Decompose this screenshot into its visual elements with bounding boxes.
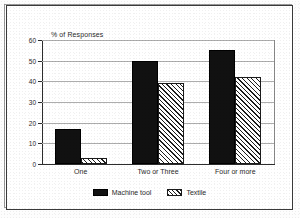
legend-swatch-icon bbox=[167, 189, 182, 196]
bar-machine-tool-four-or-more bbox=[209, 50, 235, 164]
bar-machine-tool-two-or-three bbox=[132, 61, 158, 164]
legend-item-textile: Textile bbox=[167, 189, 206, 196]
x-axis-tick-label: Four or more bbox=[215, 168, 255, 175]
x-axis-tick-label: One bbox=[74, 168, 87, 175]
gridline bbox=[42, 61, 274, 62]
y-axis-tick-mark bbox=[38, 40, 42, 41]
y-axis-tick-mark bbox=[38, 81, 42, 82]
x-axis-tick-label: Two or Three bbox=[137, 168, 178, 175]
plot-right-rule bbox=[274, 40, 275, 165]
bar-machine-tool-one bbox=[55, 129, 81, 164]
y-axis-title: % of Responses bbox=[51, 31, 103, 38]
legend-label: Machine tool bbox=[112, 189, 152, 196]
bar-textile-one bbox=[81, 158, 107, 164]
y-axis-tick-label: 0 bbox=[32, 161, 36, 168]
bar-chart-figure: % of Responses 0102030405060 Machine too… bbox=[6, 5, 293, 210]
y-axis-tick-mark bbox=[38, 102, 42, 103]
y-axis-tick-label: 20 bbox=[29, 119, 36, 126]
bar-textile-four-or-more bbox=[235, 77, 261, 164]
y-axis-tick-label: 50 bbox=[29, 57, 36, 64]
gridline bbox=[42, 40, 274, 41]
y-axis-tick-mark bbox=[38, 143, 42, 144]
y-axis-tick-mark bbox=[38, 123, 42, 124]
legend-label: Textile bbox=[186, 189, 206, 196]
y-axis-tick-mark bbox=[38, 164, 42, 165]
legend-item-machine-tool: Machine tool bbox=[93, 189, 152, 196]
scanned-page: % of Responses 0102030405060 Machine too… bbox=[0, 0, 300, 218]
y-axis-tick-label: 30 bbox=[29, 99, 36, 106]
chart-legend: Machine toolTextile bbox=[6, 189, 293, 196]
y-axis-tick-labels: 0102030405060 bbox=[6, 5, 36, 210]
x-axis-line bbox=[42, 164, 275, 165]
y-axis-tick-mark bbox=[38, 61, 42, 62]
plot-area bbox=[42, 40, 274, 164]
bar-textile-two-or-three bbox=[158, 83, 184, 164]
y-axis-tick-label: 10 bbox=[29, 140, 36, 147]
y-axis-tick-label: 60 bbox=[29, 37, 36, 44]
legend-swatch-icon bbox=[93, 189, 108, 196]
y-axis-tick-label: 40 bbox=[29, 78, 36, 85]
